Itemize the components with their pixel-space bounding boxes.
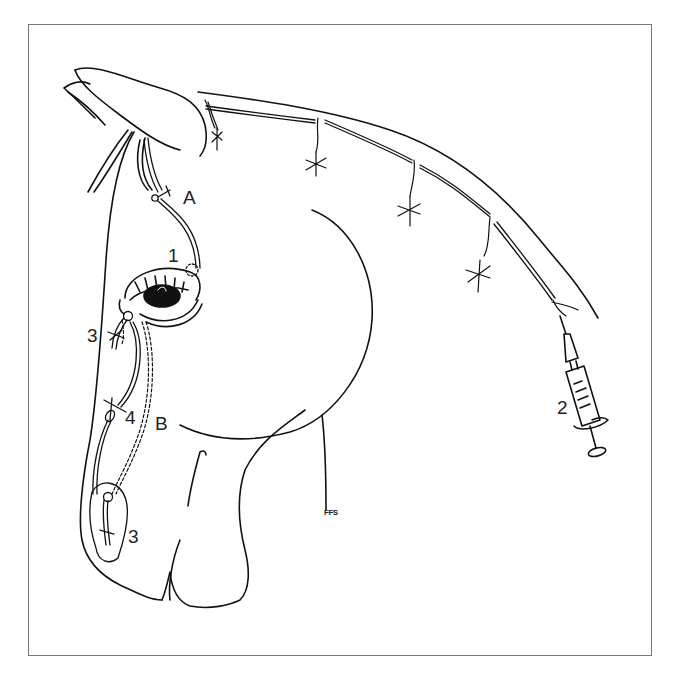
suture-butterfly-icons xyxy=(205,100,578,316)
label-3-upper: 3 xyxy=(87,326,98,345)
label-2: 2 xyxy=(557,398,568,417)
label-1: 1 xyxy=(168,246,179,265)
syringe-icon xyxy=(560,316,608,458)
horse-head-illustration xyxy=(0,0,673,691)
suture-icon xyxy=(552,300,578,316)
ear-shape xyxy=(64,68,206,156)
jaw-arc xyxy=(180,210,372,439)
suture-icon xyxy=(398,160,420,226)
suture-icon xyxy=(466,218,490,292)
label-4: 4 xyxy=(125,408,136,427)
jaw-line xyxy=(322,415,326,510)
label-b: B xyxy=(155,414,168,433)
label-3-lower: 3 xyxy=(128,527,139,546)
neck-crest xyxy=(198,92,598,318)
catheter-tube-neck xyxy=(206,106,555,300)
artist-signature: FFS xyxy=(324,508,338,517)
suture-icon xyxy=(306,118,326,176)
nostril-curve xyxy=(188,451,206,506)
label-a: A xyxy=(183,188,196,207)
